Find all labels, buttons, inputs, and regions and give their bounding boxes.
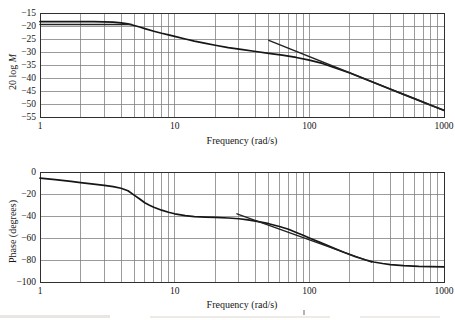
y-tick-label: −50 <box>21 99 36 109</box>
y-tick-label: −25 <box>21 34 36 44</box>
x-tick-label: 1 <box>38 121 43 131</box>
bode-plots-canvas: −15−20−25−30−35−40−45−50−5511010010000−2… <box>0 0 455 320</box>
y-tick-label: 0 <box>31 167 36 177</box>
y-tick-label: −55 <box>21 112 36 122</box>
y-tick-label: −80 <box>21 255 36 265</box>
cropped-caption-artifact <box>303 310 305 315</box>
y-tick-label: −20 <box>21 21 36 31</box>
grid-lines <box>40 172 444 282</box>
cropped-caption-artifact <box>150 316 330 318</box>
cropped-caption-artifact <box>0 315 110 318</box>
phase-response-curve <box>40 178 444 267</box>
y-tick-label: −30 <box>21 47 36 57</box>
y-tick-label: −45 <box>21 86 36 96</box>
x-tick-label: 100 <box>302 121 317 131</box>
high-frequency-asymptote-curve <box>269 40 444 110</box>
x-tick-label: 1000 <box>435 286 454 296</box>
x-tick-label: 100 <box>302 286 317 296</box>
y-tick-label: −100 <box>16 277 36 287</box>
y-tick-label: −40 <box>21 73 36 83</box>
y-tick-label: −40 <box>21 211 36 221</box>
phase-plot: 0−20−40−60−80−1001101001000 <box>16 167 453 296</box>
y-tick-label: −20 <box>21 189 36 199</box>
grid-lines <box>40 13 444 117</box>
magnitude-plot: −15−20−25−30−35−40−45−50−551101001000 <box>21 8 454 131</box>
y-tick-label: −15 <box>21 8 36 18</box>
magnitude-y-axis-title-text: 20 log <box>7 62 18 90</box>
phase-x-axis-title: Frequency (rad/s) <box>40 299 444 310</box>
bode-plot-figure: −15−20−25−30−35−40−45−50−5511010010000−2… <box>0 0 455 320</box>
phase-y-axis-title-text: Phase (degrees) <box>7 200 18 263</box>
magnitude-response-curve <box>40 22 444 111</box>
magnitude-x-axis-title: Frequency (rad/s) <box>40 135 444 146</box>
magnitude-y-axis-title: 20 log M <box>7 54 18 90</box>
x-tick-label: 10 <box>170 286 180 296</box>
x-tick-label: 1000 <box>435 121 454 131</box>
magnitude-variable-m: M <box>7 54 18 62</box>
y-tick-label: −60 <box>21 233 36 243</box>
cropped-caption-artifact <box>360 316 440 318</box>
phase-y-axis-title: Phase (degrees) <box>7 200 18 263</box>
x-tick-label: 10 <box>170 121 180 131</box>
y-tick-label: −35 <box>21 60 36 70</box>
plot-frame <box>40 172 444 282</box>
x-tick-label: 1 <box>38 286 43 296</box>
